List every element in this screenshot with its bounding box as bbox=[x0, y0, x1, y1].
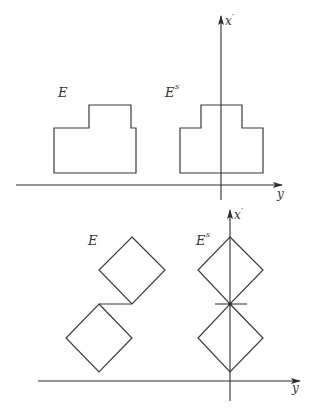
bottom-contact-point bbox=[228, 302, 232, 306]
top-axis-label-prime: ′ bbox=[232, 13, 234, 23]
top-label-E-s: E bbox=[164, 85, 175, 100]
top-axis-label-y: y bbox=[276, 187, 284, 201]
top-set-E bbox=[54, 105, 136, 173]
bottom-axis-label-x: x bbox=[234, 208, 241, 222]
bottom-label-E-s-sup: s bbox=[206, 230, 210, 239]
bottom-set-E-upper-square bbox=[99, 237, 165, 304]
symmetrization-figure: E E s x ′ y E E s x ′ y bbox=[0, 0, 315, 409]
top-label-E: E bbox=[57, 85, 68, 100]
bottom-axis-label-prime: ′ bbox=[241, 207, 243, 217]
bottom-set-E-lower-square bbox=[66, 304, 132, 372]
top-axis-label-x: x bbox=[225, 14, 232, 28]
bottom-diagram: E E s x ′ y bbox=[38, 207, 300, 401]
bottom-label-E-s: E bbox=[195, 233, 206, 248]
bottom-label-E: E bbox=[87, 233, 98, 248]
bottom-axis-label-y: y bbox=[291, 381, 299, 395]
top-label-E-s-sup: s bbox=[175, 82, 179, 91]
top-diagram: E E s x ′ y bbox=[16, 13, 284, 201]
